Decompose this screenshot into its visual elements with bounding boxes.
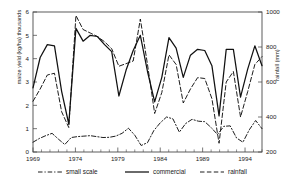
bottom-axis-ticks: 196919741979198419891994	[26, 148, 262, 163]
chart-legend: small scalecommercialrainfall	[38, 168, 247, 175]
year-tick-label: 1984	[153, 155, 167, 162]
year-tick-label: 1969	[26, 155, 40, 162]
year-tick-label: 1974	[69, 155, 83, 162]
year-tick-label: 1994	[238, 155, 252, 162]
left-axis-ticks: 0123456	[26, 8, 37, 155]
data-series-layer	[33, 16, 262, 146]
year-tick-label: 1989	[196, 155, 210, 162]
series-rainfall	[33, 16, 262, 144]
series-commercial	[33, 28, 262, 124]
series-small-scale	[33, 117, 262, 145]
left-tick-label: 5	[26, 32, 30, 39]
left-tick-label: 2	[26, 102, 30, 109]
year-tick-label: 1979	[111, 155, 125, 162]
legend-label-commercial: commercial	[153, 168, 186, 175]
left-tick-label: 6	[26, 8, 30, 15]
legend-label-small-scale: small scale	[66, 168, 98, 175]
right-tick-label: 800	[266, 43, 277, 50]
chart-figure: maize yield (kg/ha) thousands rainfall (…	[0, 0, 295, 184]
plot-canvas: 0123456 2004006008001000 196919741979198…	[0, 0, 295, 184]
left-tick-label: 3	[26, 78, 30, 85]
right-axis-ticks: 2004006008001000	[258, 8, 280, 155]
right-tick-label: 200	[266, 148, 277, 155]
left-tick-label: 4	[26, 55, 30, 62]
left-tick-label: 1	[26, 125, 30, 132]
right-tick-label: 600	[266, 78, 277, 85]
legend-label-rainfall: rainfall	[228, 168, 247, 175]
right-tick-label: 1000	[266, 8, 280, 15]
right-tick-label: 400	[266, 113, 277, 120]
axes-frame	[33, 12, 262, 152]
